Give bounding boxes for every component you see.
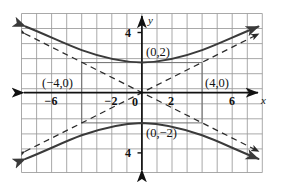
tick-label-y-negative-4: 4 (125, 146, 131, 160)
tick-label-x-negative-6: −6 (45, 94, 58, 108)
x-axis-label: x (260, 94, 266, 106)
hyperbola-figure: y x 4 4 −6 −2 0 2 6 (0,2) (0,−2) (−4,0) … (0, 0, 283, 187)
tick-label-y-positive-4: 4 (125, 26, 131, 40)
graph-canvas: y x 4 4 −6 −2 0 2 6 (0,2) (0,−2) (−4,0) … (0, 0, 283, 187)
point-label-left-box: (−4,0) (42, 76, 73, 90)
tick-label-x-positive-2: 2 (168, 94, 174, 108)
tick-label-x-positive-6: 6 (229, 94, 235, 108)
point-label-right-box: (4,0) (205, 76, 229, 90)
tick-label-x-negative-2: −2 (105, 94, 118, 108)
point-label-bottom-vertex: (0,−2) (146, 126, 177, 140)
tick-label-origin: 0 (132, 95, 138, 109)
y-axis-label: y (147, 14, 153, 26)
point-label-top-vertex: (0,2) (146, 45, 170, 59)
